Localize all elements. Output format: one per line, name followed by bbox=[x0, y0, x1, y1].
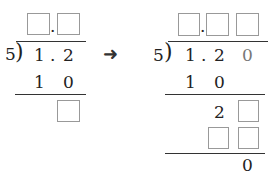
bracket-left: ) bbox=[15, 41, 24, 63]
division-bar-left bbox=[16, 41, 86, 42]
bracket-right: ) bbox=[164, 41, 173, 63]
product2-box-2[interactable] bbox=[238, 127, 259, 149]
remainder-box-left[interactable] bbox=[57, 100, 80, 122]
remainder-digit: 2 bbox=[214, 104, 225, 121]
subtract-line-left bbox=[15, 94, 86, 95]
bring-down-box[interactable] bbox=[238, 100, 259, 122]
product-digit-2: 0 bbox=[63, 74, 74, 91]
arrow-right-icon: ➜ bbox=[103, 45, 118, 63]
quotient-dot-right: . bbox=[200, 18, 205, 35]
dividend-dot: . bbox=[50, 47, 55, 64]
division-bar-right bbox=[168, 41, 268, 42]
dividend-dot-right: . bbox=[201, 47, 206, 64]
quotient-box-1-left[interactable] bbox=[27, 13, 50, 35]
product2-box-1[interactable] bbox=[208, 127, 229, 149]
dividend-digit-1: 1 bbox=[34, 47, 45, 64]
final-remainder: 0 bbox=[242, 157, 253, 172]
quotient-box-2-left[interactable] bbox=[57, 13, 80, 35]
quotient-box-2-right[interactable] bbox=[206, 13, 229, 36]
dividend-digit-2-right: 2 bbox=[214, 47, 225, 64]
dividend-digit-1-right: 1 bbox=[185, 47, 196, 64]
quotient-dot-left: . bbox=[50, 18, 55, 35]
dividend-digit-3-right: 0 bbox=[242, 47, 253, 64]
subtract-line-1-right bbox=[165, 94, 265, 95]
divisor-right: 5 bbox=[153, 47, 164, 64]
quotient-box-1-right[interactable] bbox=[178, 13, 200, 36]
quotient-box-3-right[interactable] bbox=[236, 13, 259, 36]
product-digit-1: 1 bbox=[34, 74, 45, 91]
dividend-digit-2: 2 bbox=[63, 47, 74, 64]
product1-digit-2: 0 bbox=[214, 74, 225, 91]
product1-digit-1: 1 bbox=[185, 74, 196, 91]
